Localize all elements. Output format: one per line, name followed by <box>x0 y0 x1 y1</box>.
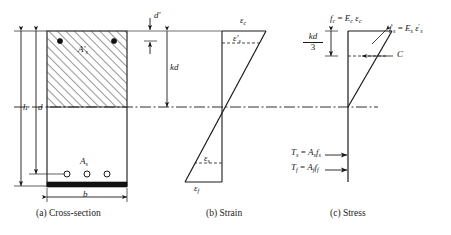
dimension-label-d-prime: d′ <box>154 11 160 20</box>
stress-label-compression-resultant: C <box>397 50 403 59</box>
caption-cross-section: (a) Cross-section <box>36 208 101 218</box>
stress-equation-compression-steel: f′s = Es ε′s <box>389 24 423 33</box>
strain-label-frp: εf <box>194 184 199 193</box>
figure-vector-layer <box>0 0 451 235</box>
tension-rebar <box>104 171 110 177</box>
tension-rebar <box>84 171 90 177</box>
dimension-label-d: d <box>38 103 43 112</box>
compression-rebar <box>111 38 116 43</box>
caption-strain: (b) Strain <box>206 208 242 218</box>
dimension-label-b: b <box>83 190 88 199</box>
strain-label-tension-steel: εs <box>204 154 210 163</box>
strain-label-compression-steel: ε′s <box>233 34 241 43</box>
stress-equation-concrete: fc = Ec εc <box>330 14 362 23</box>
strain-profile-line <box>185 31 266 182</box>
cross-section-panel <box>14 18 222 202</box>
dimension-label-h: h <box>23 103 28 112</box>
strain-panel <box>185 31 266 182</box>
stress-lever-arm-fraction: kd 3 <box>303 32 323 53</box>
frp-plate <box>47 182 127 187</box>
figure-reinforced-concrete-section: h d b d′ kd A′s As εc ε′s εs εf fc = Ec … <box>0 0 451 235</box>
tension-rebar <box>64 171 70 177</box>
stress-concrete-block-hypotenuse <box>348 31 392 107</box>
stress-equation-tension-frp: Tf = Afff <box>291 163 319 172</box>
comp-steel-stress-leader <box>372 30 386 44</box>
compression-steel-label: A′s <box>78 45 88 54</box>
tension-steel-label: As <box>80 157 88 166</box>
stress-equation-tension-steel: Ts = Asfs <box>291 148 321 157</box>
dimension-label-kd: kd <box>170 63 179 72</box>
strain-label-concrete: εc <box>240 16 246 25</box>
stress-panel <box>325 30 393 182</box>
compression-rebar <box>57 38 62 43</box>
caption-stress: (c) Stress <box>330 208 366 218</box>
